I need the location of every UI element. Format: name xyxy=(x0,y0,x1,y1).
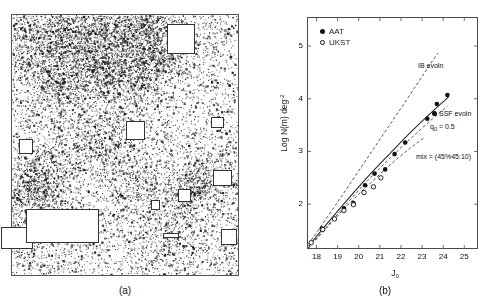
y-axis-tick-label: 2 xyxy=(289,199,303,208)
x-axis-title-subscript: 0 xyxy=(396,273,399,279)
legend-label-ukst: UKST xyxy=(329,37,350,48)
mask-box xyxy=(178,189,191,202)
x-axis-tick-label: 24 xyxy=(434,252,452,261)
data-point-aat xyxy=(372,171,377,176)
curve-label-q0: q0 = 0.5 xyxy=(430,123,455,132)
data-point-ukst xyxy=(321,227,325,231)
y-axis-title: Log N(m) deg-2 xyxy=(279,63,289,183)
y-axis-tick-label: 3 xyxy=(289,146,303,155)
mask-box xyxy=(126,121,145,141)
figure-container: (a) AAT UKST IB evoln SSF evoln q0 = 0.5… xyxy=(0,0,490,306)
curve-label-ssf-text: SSF evoln xyxy=(439,110,471,117)
x-axis-tick-label: 21 xyxy=(371,252,389,261)
data-point-ukst xyxy=(332,217,336,221)
filled-circle-icon xyxy=(320,29,325,34)
mask-box xyxy=(163,233,179,239)
y-axis-title-superscript: -2 xyxy=(279,94,285,99)
chart-legend: AAT UKST xyxy=(320,26,350,48)
x-axis-tick-label: 18 xyxy=(308,252,326,261)
mask-box xyxy=(19,139,33,153)
data-point-aat xyxy=(392,152,397,157)
x-axis-title: J0 xyxy=(375,268,415,279)
data-point-aat xyxy=(445,93,450,98)
data-point-ukst xyxy=(362,190,366,194)
data-point-aat xyxy=(435,102,440,107)
panel-a-sky-field xyxy=(11,14,239,276)
x-axis-tick-label: 23 xyxy=(413,252,431,261)
data-point-aat xyxy=(363,183,368,188)
y-axis-title-base: Log N(m) deg xyxy=(279,100,289,152)
mask-box xyxy=(211,117,225,127)
legend-item-aat: AAT xyxy=(320,26,350,37)
mask-box xyxy=(213,170,231,186)
panel-a-caption: (a) xyxy=(95,285,155,296)
legend-label-aat: AAT xyxy=(329,26,344,37)
legend-item-ukst: UKST xyxy=(320,37,350,48)
x-axis-tick-label: 25 xyxy=(455,252,473,261)
curve-ib-evoln xyxy=(308,53,437,244)
data-point-ukst xyxy=(351,203,355,207)
open-circle-icon xyxy=(320,40,325,45)
panel-b-number-counts-plot: AAT UKST IB evoln SSF evoln q0 = 0.5 mix… xyxy=(270,10,485,285)
y-axis-tick-label: 4 xyxy=(289,94,303,103)
mask-box xyxy=(221,229,237,245)
mask-box xyxy=(151,200,160,210)
data-point-aat xyxy=(425,116,430,121)
data-point-ukst xyxy=(342,208,346,212)
q0-tail: = 0.5 xyxy=(437,123,455,130)
curve-q0-0-5 xyxy=(308,106,447,248)
data-point-ukst xyxy=(309,240,313,244)
filled-circle-icon xyxy=(432,111,437,116)
mask-box xyxy=(26,209,99,243)
data-point-ukst xyxy=(379,176,383,180)
curve-label-ib-evoln: IB evoln xyxy=(418,62,443,69)
panel-b-caption: (b) xyxy=(355,285,415,296)
x-axis-tick-label: 22 xyxy=(392,252,410,261)
data-point-ukst xyxy=(371,185,375,189)
mask-box xyxy=(167,24,196,54)
curve-label-ssf-evoln: SSF evoln xyxy=(432,110,471,117)
y-axis-tick-label: 5 xyxy=(289,41,303,50)
curve-label-mix: mix = (45%45:10) xyxy=(416,153,471,160)
data-point-aat xyxy=(403,140,408,145)
x-axis-tick-label: 19 xyxy=(329,252,347,261)
data-point-aat xyxy=(383,167,388,172)
x-axis-tick-label: 20 xyxy=(350,252,368,261)
